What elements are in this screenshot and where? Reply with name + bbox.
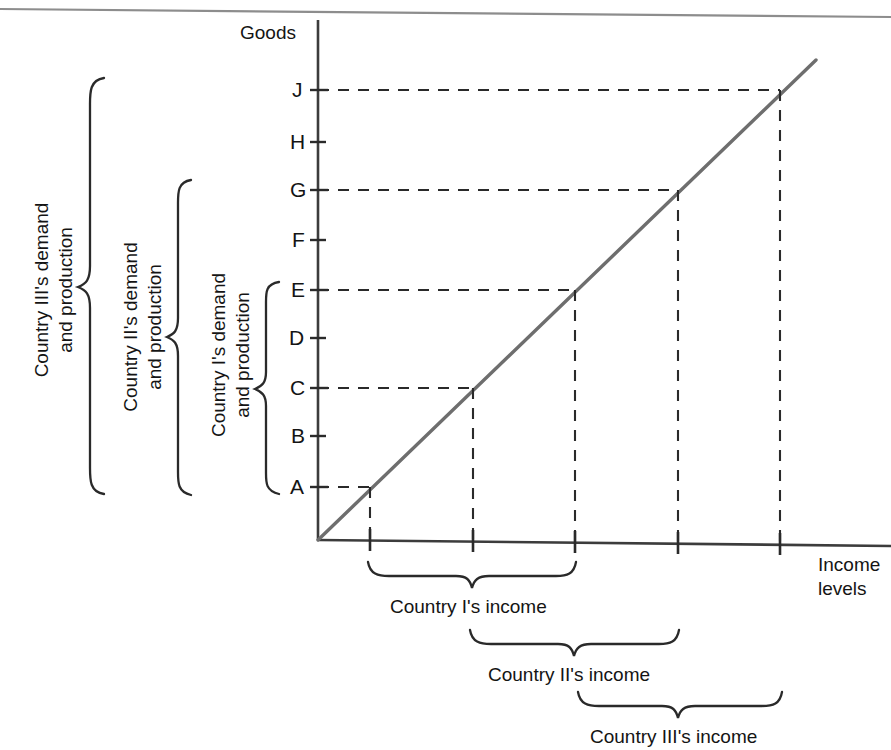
y-tick-label-G: G [290,178,306,203]
y-tick-label-A: A [290,475,304,500]
bottom-brace-label-country-2: Country II's income [488,664,650,686]
bottom-brace-country-3 [578,692,782,718]
left-brace-label-country-1-line1: Country I's demand [207,210,230,500]
y-tick-label-B: B [291,424,305,449]
x-axis-title-line1: Income [818,554,880,576]
scan-edge-line [0,9,891,17]
figure-canvas: Goods Income levels J H G F E D C B A Co… [0,0,891,750]
y-tick-label-E: E [291,278,305,303]
bottom-brace-label-country-3: Country III's income [590,726,757,748]
y-tick-label-H: H [290,130,305,155]
forty-five-degree-ray [318,60,816,540]
y-tick-label-F: F [292,228,305,253]
left-brace-label-country-1-line2: and production [231,210,254,500]
y-tick-label-J: J [292,78,303,103]
y-tick-label-C: C [290,376,305,401]
left-brace-label-country-2-line2: and production [143,152,166,502]
x-axis-title-line2: levels [818,578,867,600]
left-brace-label-country-3-line1: Country III's demand [30,80,53,500]
x-axis-line [318,540,891,546]
bottom-brace-country-2 [470,630,679,656]
left-brace-country-1 [255,282,279,494]
y-axis-title: Goods [240,22,296,44]
left-brace-country-3 [78,78,104,494]
left-brace-country-2 [167,180,191,495]
left-brace-label-country-3-line2: and production [54,80,77,500]
y-tick-label-D: D [289,326,304,351]
bottom-brace-label-country-1: Country I's income [390,596,547,618]
left-brace-label-country-2-line1: Country II's demand [119,152,142,502]
bottom-brace-country-1 [368,562,576,588]
